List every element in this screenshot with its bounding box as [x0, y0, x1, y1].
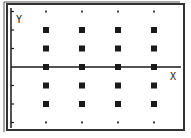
- data-point: [151, 83, 157, 89]
- data-point: [43, 46, 49, 52]
- grid-dot: [117, 11, 119, 13]
- data-point: [79, 27, 85, 33]
- data-point: [151, 101, 157, 107]
- data-point: [79, 46, 85, 52]
- data-point: [43, 83, 49, 89]
- grid-dot: [45, 11, 47, 13]
- data-point: [43, 101, 49, 107]
- y-axis-label: Y: [16, 14, 22, 25]
- data-point: [79, 101, 85, 107]
- x-axis-label: X: [170, 71, 176, 82]
- data-point: [151, 46, 157, 52]
- data-point: [115, 46, 121, 52]
- data-point: [115, 101, 121, 107]
- data-point: [151, 27, 157, 33]
- grid-dot: [153, 11, 155, 13]
- data-point: [115, 64, 121, 70]
- data-point: [43, 64, 49, 70]
- grid-dot: [45, 122, 47, 124]
- grid-dot: [153, 122, 155, 124]
- data-point: [115, 27, 121, 33]
- grid-dot: [81, 11, 83, 13]
- data-point: [79, 64, 85, 70]
- data-point: [151, 64, 157, 70]
- grid-dot: [117, 122, 119, 124]
- grid-dot: [81, 122, 83, 124]
- data-point: [79, 83, 85, 89]
- data-point: [43, 27, 49, 33]
- calculator-graph-screen: Y X: [0, 0, 191, 138]
- data-point: [115, 83, 121, 89]
